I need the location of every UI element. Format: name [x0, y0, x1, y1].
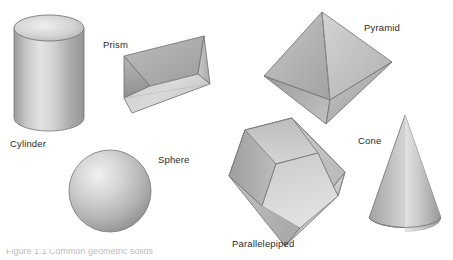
label-cone: Cone: [358, 136, 381, 146]
geometric-solids-figure: Cylinder Prism Pyramid Sphere Parallelep…: [0, 0, 453, 260]
label-sphere: Sphere: [158, 155, 190, 165]
shape-sphere: [69, 150, 151, 232]
shape-cone: [369, 115, 441, 232]
shape-cylinder: [14, 15, 84, 131]
label-prism: Prism: [103, 40, 128, 50]
label-pyramid: Pyramid: [364, 23, 400, 33]
clipped-caption-strip: Figure 1.1 Common geometric solids: [0, 249, 453, 260]
shape-prism: [124, 36, 210, 113]
clipped-caption-text: Figure 1.1 Common geometric solids: [6, 249, 153, 256]
label-cylinder: Cylinder: [10, 139, 46, 149]
solids-illustration: [0, 0, 453, 260]
shape-parallelepiped: [229, 118, 345, 246]
label-parallelepiped: Parallelepiped: [232, 239, 294, 249]
